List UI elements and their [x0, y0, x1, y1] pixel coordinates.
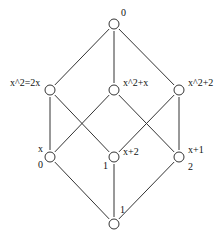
node-label: 1: [103, 160, 108, 171]
node-top: [109, 19, 119, 29]
edges-group: [50, 29, 179, 219]
node-label: x^2+2: [188, 77, 213, 88]
node-label: x+2: [123, 146, 139, 157]
edge-l-left-bottom: [55, 162, 109, 219]
node-l-center: [109, 152, 119, 162]
node-l-left: [45, 152, 55, 162]
hasse-diagram: 0x^2=2xx^2+xx^2+2x0x+21x+121: [0, 0, 222, 239]
node-label: x^2+x: [123, 77, 148, 88]
node-l-right: [174, 152, 184, 162]
node-label: x+1: [188, 144, 204, 155]
node-m-right: [174, 85, 184, 95]
node-label: 0: [38, 159, 43, 170]
node-label: x^2=2x: [10, 77, 40, 88]
node-label: 0: [121, 7, 126, 18]
labels-group: 0x^2=2xx^2+xx^2+2x0x+21x+121: [10, 7, 213, 215]
node-m-left: [45, 85, 55, 95]
edge-l-right-bottom: [119, 162, 174, 219]
node-label: 2: [188, 161, 193, 172]
node-m-center: [109, 85, 119, 95]
node-label: x: [38, 143, 43, 154]
node-bottom: [109, 219, 119, 229]
node-label: 1: [120, 204, 125, 215]
edge-top-m-left: [55, 29, 109, 85]
